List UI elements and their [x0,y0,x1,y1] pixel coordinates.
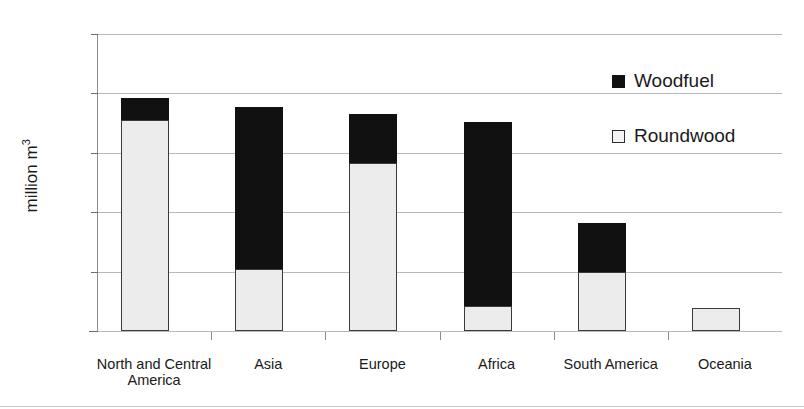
x-tick-mark-1 [211,332,212,340]
y-axis-title: million m3 [20,96,42,256]
bar-segment-roundwood[interactable] [464,306,512,331]
bar-stack[interactable] [235,107,283,331]
bar-segment-roundwood[interactable] [235,269,283,331]
legend-swatch-roundwood-icon [612,130,625,143]
bar-segment-roundwood[interactable] [578,272,626,331]
y-axis-title-superscript: 3 [20,139,32,145]
y-axis-title-text: million m [22,145,41,212]
page-bottom-rule [0,406,804,407]
y-tick-mark-400 [91,212,98,213]
chart-legend: Woodfuel Roundwood [612,66,735,176]
y-axis-line [97,34,98,331]
bar-segment-woodfuel[interactable] [121,98,169,120]
bar-segment-roundwood[interactable] [349,163,397,331]
gridline-1000 [97,34,782,35]
stacked-bar-chart: million m3 02004006008001000 North and C… [0,0,804,409]
bar-segment-woodfuel[interactable] [464,122,512,306]
bar-stack[interactable] [464,122,512,331]
legend-item-woodfuel: Woodfuel [612,66,735,96]
y-tick-mark-200 [91,272,98,273]
y-tick-mark-1000 [91,34,98,35]
x-tick-mark-5 [668,332,669,340]
y-tick-mark-0 [91,331,98,332]
bar-segment-woodfuel[interactable] [578,223,626,272]
x-tick-mark-4 [554,332,555,340]
gridline-200 [97,272,782,273]
gridline-400 [97,212,782,213]
legend-label-woodfuel: Woodfuel [634,70,714,92]
x-category-label: Oceania [656,356,794,372]
legend-item-roundwood: Roundwood [612,121,735,151]
bar-stack[interactable] [121,98,169,331]
bar-segment-woodfuel[interactable] [349,114,397,163]
legend-swatch-woodfuel-icon [612,75,625,88]
y-tick-mark-800 [91,93,98,94]
x-category-label-line: America [85,372,223,388]
legend-label-roundwood: Roundwood [634,125,735,147]
bar-segment-roundwood[interactable] [692,308,740,331]
bar-segment-woodfuel[interactable] [235,107,283,269]
bar-stack[interactable] [692,308,740,331]
x-category-label-line: Oceania [656,356,794,372]
y-tick-mark-600 [91,153,98,154]
bar-stack[interactable] [578,223,626,331]
bar-segment-roundwood[interactable] [121,120,169,331]
x-tick-mark-3 [440,332,441,340]
bar-stack[interactable] [349,114,397,331]
x-tick-mark-2 [325,332,326,340]
